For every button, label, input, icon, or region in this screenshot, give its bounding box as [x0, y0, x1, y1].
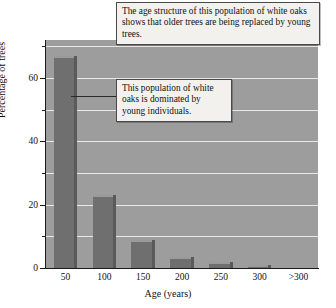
x-tick-label: 250: [214, 272, 228, 282]
chart-figure: 0204060 50100150200250300>300 Percentage…: [0, 0, 336, 308]
tick-mark: [40, 141, 46, 142]
tick-mark: [42, 173, 46, 174]
x-axis-line: [45, 268, 319, 269]
tick-mark: [42, 110, 46, 111]
x-tick-label: 150: [136, 272, 150, 282]
annotation-callout-top: The age structure of this population of …: [116, 2, 320, 45]
tick-mark: [42, 236, 46, 237]
bar-side-shadow: [74, 56, 77, 268]
bar: [93, 195, 116, 268]
y-axis-line: [45, 40, 46, 269]
bar-side-shadow: [113, 195, 116, 268]
x-axis-title: Age (years): [0, 288, 336, 299]
y-tick-label: 0: [33, 263, 38, 273]
y-tick-label: 20: [29, 200, 39, 210]
tick-mark: [40, 268, 46, 269]
bar-series: [46, 40, 318, 268]
bar-slot: [46, 40, 85, 268]
y-tick-label: 60: [29, 73, 39, 83]
bar-slot: [201, 40, 240, 268]
y-axis-title: Percentage of trees: [0, 42, 7, 118]
bar: [170, 257, 193, 268]
bar: [131, 240, 154, 269]
x-tick-label: 300: [253, 272, 267, 282]
bar-slot: [85, 40, 124, 268]
y-tick-label: 40: [29, 136, 39, 146]
annotation-callout-middle: This population of white oaks is dominat…: [116, 79, 232, 122]
bar: [54, 56, 77, 268]
bar-slot: [124, 40, 163, 268]
bar-slot: [163, 40, 202, 268]
bar-slot: [279, 40, 318, 268]
bar-slot: [240, 40, 279, 268]
bar-side-shadow: [191, 257, 194, 268]
tick-mark: [40, 205, 46, 206]
plot-area: [46, 40, 318, 268]
annotation-leader-line: [71, 96, 116, 97]
x-tick-label: 200: [175, 272, 189, 282]
tick-mark: [42, 46, 46, 47]
x-tick-label: 50: [61, 272, 71, 282]
tick-mark: [40, 78, 46, 79]
x-tick-label: >300: [289, 272, 309, 282]
x-tick-label: 100: [97, 272, 111, 282]
bar-side-shadow: [152, 240, 155, 269]
